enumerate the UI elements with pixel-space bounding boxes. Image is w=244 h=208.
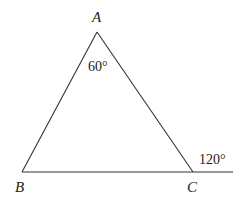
- vertex-label-c: C: [187, 180, 197, 195]
- triangle-figure: [0, 0, 244, 208]
- side-ac: [97, 32, 193, 172]
- side-ab: [22, 32, 97, 172]
- vertex-label-b: B: [15, 180, 24, 195]
- angle-label-a: 60°: [88, 60, 108, 74]
- vertex-label-a: A: [92, 10, 101, 25]
- angle-label-c-exterior: 120°: [199, 153, 226, 167]
- triangle-diagram: A B C 60° 120°: [0, 0, 244, 208]
